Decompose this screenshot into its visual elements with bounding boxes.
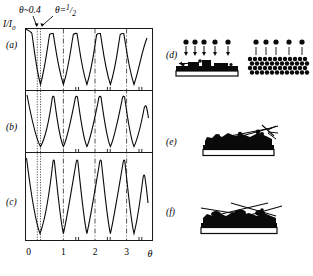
d-right-multilayer-stack <box>248 57 309 75</box>
plot-frame-c <box>26 153 153 241</box>
incident-atom <box>299 39 304 44</box>
incident-atom <box>286 39 291 44</box>
label-theta-half-prefix: θ= <box>55 5 66 15</box>
layer-row <box>248 66 307 70</box>
schematic-d: (d) <box>166 39 309 76</box>
arrowhead <box>213 52 217 56</box>
adatom <box>256 130 261 135</box>
d-left-substrate-bar <box>176 66 238 71</box>
d-left-arrowheads <box>184 52 230 56</box>
layer-row <box>250 61 309 65</box>
xtick-label-1: 1 <box>61 247 66 257</box>
surface-island <box>255 210 265 216</box>
schematics-group: (d) <box>166 39 309 233</box>
e-substrate-bar <box>203 145 274 150</box>
label-y-axis: I/I0 <box>2 19 16 32</box>
panel-label-f: (f) <box>166 207 175 218</box>
e-rough-surface <box>205 130 272 146</box>
minor-ticks-group <box>76 87 142 241</box>
incident-atom <box>225 39 230 44</box>
curve-a <box>32 33 147 85</box>
arrowhead <box>226 52 230 56</box>
adatom <box>238 132 242 136</box>
panel-label-e: (e) <box>166 137 177 148</box>
d-left-islands <box>181 59 232 66</box>
d-left-substrate-body <box>176 71 238 76</box>
d-right-arrows <box>256 47 302 55</box>
layer-row <box>250 70 309 74</box>
figure-container: θ~0.4 θ=1/2 I/I0 (a) (b) (c) 0 1 2 3 θ <box>0 0 313 276</box>
curve-a-tail <box>26 29 32 33</box>
xtick-label-2: 2 <box>93 247 98 257</box>
incident-atom <box>263 39 268 44</box>
panel-label-b: (b) <box>6 122 17 133</box>
schematic-e: (e) <box>166 125 278 156</box>
arrowhead <box>179 62 183 65</box>
beam-spike <box>268 132 278 133</box>
d-left-arrows <box>186 46 228 54</box>
curve-b <box>27 95 149 147</box>
f-substrate-body <box>201 228 277 234</box>
panel-label-c: (c) <box>6 197 17 208</box>
e-substrate-body <box>203 150 274 156</box>
f-island-surface <box>203 210 276 224</box>
arrowhead-theta-0.4 <box>35 23 39 27</box>
guide-lines-theta-fraction <box>37 29 40 241</box>
incident-atom <box>212 39 217 44</box>
xtick-label-0: 0 <box>26 247 31 257</box>
yaxis-I0-sub: 0 <box>12 24 16 32</box>
incident-atom <box>201 39 206 44</box>
adatom-island <box>214 63 228 66</box>
panel-label-a: (a) <box>6 40 17 51</box>
curve-a-group <box>26 29 147 84</box>
adatom <box>260 132 264 136</box>
label-theta-approx: θ~0.4 <box>19 5 41 15</box>
layer-row <box>248 57 307 61</box>
xtick-label-3: 3 <box>124 247 129 257</box>
arrowhead <box>202 52 206 56</box>
curve-b-group <box>27 95 149 147</box>
panel-label-d: (d) <box>166 50 177 61</box>
label-x-axis: θ <box>148 248 153 259</box>
incident-atom <box>253 39 258 44</box>
adatom <box>229 63 232 66</box>
incident-atom <box>192 39 197 44</box>
label-theta-half: θ=1/2 <box>55 3 76 18</box>
plots-group: θ~0.4 θ=1/2 I/I0 (a) (b) (c) 0 1 2 3 θ <box>2 3 153 259</box>
guide-lines-integers <box>63 29 126 241</box>
curve-c-group <box>27 158 149 234</box>
adatom <box>216 134 220 138</box>
f-substrate-bar <box>201 223 277 228</box>
surface-island <box>234 210 246 217</box>
adatom <box>198 59 202 63</box>
surface-island <box>211 211 221 217</box>
arrowhead <box>184 52 188 56</box>
schematic-f: (f) <box>166 203 282 234</box>
d-left-incident-atoms <box>183 39 230 44</box>
incident-atom <box>273 39 278 44</box>
arrowhead <box>193 52 197 56</box>
label-theta-half-den: 2 <box>72 9 76 18</box>
incident-atom <box>183 39 188 44</box>
adatom-island <box>202 60 211 66</box>
figure-svg: θ~0.4 θ=1/2 I/I0 (a) (b) (c) 0 1 2 3 θ <box>0 0 313 276</box>
curve-c <box>27 158 149 234</box>
plot-frame-b <box>26 91 153 153</box>
d-right-incident-atoms <box>253 39 304 44</box>
